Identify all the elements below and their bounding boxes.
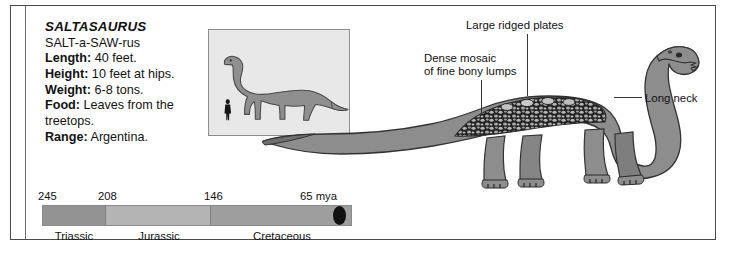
page-title: SALTASAURUS: [45, 18, 215, 35]
timeline-period-labels: Triassic Jurassic Cretaceous: [42, 229, 352, 245]
leader-line-neck: [614, 97, 642, 98]
timeline-tick-65-mya: 65 mya: [300, 190, 337, 203]
timeline-label-cretaceous: Cretaceous: [212, 229, 352, 243]
fact-range-label: Range:: [45, 130, 88, 144]
fact-height-label: Height:: [45, 67, 88, 81]
fact-box: SALTASAURUS SALT-a-SAW-rus Length: 40 fe…: [45, 18, 215, 146]
timeline-segment-triassic: [43, 206, 106, 225]
pronunciation-text: SALT-a-SAW-rus: [45, 35, 215, 51]
timeline-segment-jurassic: [106, 206, 211, 225]
extinction-oval-marker: [333, 206, 346, 225]
fact-length-value: 40 feet.: [91, 51, 137, 65]
dinosaur-eye: [676, 53, 682, 58]
fact-food-label: Food:: [45, 98, 80, 112]
illustration-page: SALTASAURUS SALT-a-SAW-rus Length: 40 fe…: [0, 0, 743, 257]
timeline-tick-245: 245: [38, 190, 57, 203]
fact-weight-label: Weight:: [45, 83, 91, 97]
fact-weight: Weight: 6-8 tons.: [45, 83, 215, 99]
timeline-label-triassic: Triassic: [42, 229, 106, 243]
fact-length: Length: 40 feet.: [45, 51, 215, 67]
fact-range: Range: Argentina.: [45, 130, 215, 146]
dinosaur-eye: [230, 59, 232, 61]
timeline-tick-208: 208: [98, 190, 117, 203]
timeline-bar: [42, 205, 352, 226]
fact-height: Height: 10 feet at hips.: [45, 67, 215, 83]
human-scale-silhouette: [224, 99, 231, 120]
timeline-segment-cretaceous: [211, 206, 351, 225]
timeline-tick-labels: 245 208 146 65 mya: [38, 190, 356, 204]
timeline-tick-146: 146: [204, 190, 223, 203]
fact-food: Food: Leaves from the treetops.: [45, 98, 215, 130]
dinosaur-legs: [484, 129, 641, 186]
fact-range-value: Argentina.: [88, 130, 148, 144]
left-vertical-rule: [25, 6, 26, 239]
fact-weight-value: 6-8 tons.: [91, 83, 144, 97]
annotation-dense-mosaic: Dense mosaic of fine bony lumps: [424, 52, 516, 79]
dinosaur-feet: [482, 175, 644, 188]
annotation-long-neck: Long neck: [645, 92, 698, 105]
leader-line-mosaic: [481, 80, 482, 114]
annotation-large-ridged-plates: Large ridged plates: [466, 19, 564, 32]
fact-height-value: 10 feet at hips.: [88, 67, 174, 81]
geologic-timeline: 245 208 146 65 mya Triassic Jurassic Cre…: [38, 190, 356, 240]
fact-length-label: Length:: [45, 51, 91, 65]
leader-line-plates: [527, 34, 528, 96]
timeline-label-jurassic: Jurassic: [106, 229, 212, 243]
